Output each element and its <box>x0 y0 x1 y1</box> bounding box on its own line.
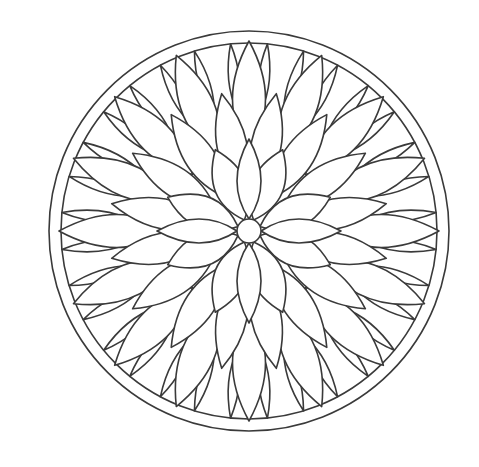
mandala-drawing <box>0 0 479 467</box>
center-circle <box>237 219 261 243</box>
